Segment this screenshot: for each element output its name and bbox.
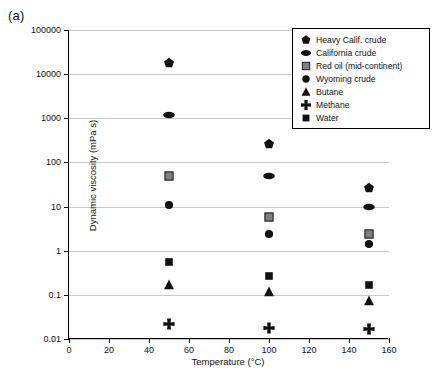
legend-marker-square-gray-icon: [298, 59, 314, 72]
y-tick-label: 1: [56, 246, 61, 256]
y-tick-label: 10: [51, 202, 61, 212]
legend-item: Butane: [298, 85, 425, 98]
x-tick: [189, 338, 190, 343]
x-tick: [69, 338, 70, 343]
gridline: [69, 251, 389, 252]
data-point: [363, 322, 376, 335]
x-tick: [149, 338, 150, 343]
gridline: [69, 162, 389, 163]
figure-panel-a: (a) 0.010.1110100100010000100000 0204060…: [0, 0, 437, 376]
data-point: [263, 321, 276, 334]
data-point: [163, 108, 176, 121]
data-point: [263, 227, 276, 240]
legend-marker-pentagon-icon: [298, 33, 314, 46]
x-tick: [389, 338, 390, 343]
y-tick: [64, 295, 69, 296]
data-point: [263, 138, 276, 151]
data-point: [363, 182, 376, 195]
data-point: [163, 56, 176, 69]
legend-item: Wyoming crude: [298, 72, 425, 85]
legend-label: Red oil (mid-continent): [316, 61, 402, 71]
x-tick-label: 80: [224, 345, 234, 355]
x-tick: [349, 338, 350, 343]
x-tick-label: 120: [301, 345, 316, 355]
legend-item: Heavy Calif. crude: [298, 33, 425, 46]
data-point: [363, 238, 376, 251]
legend-label: Water: [316, 113, 339, 123]
x-tick-label: 20: [104, 345, 114, 355]
legend-marker-plus-icon: [298, 98, 314, 111]
gridline: [69, 295, 389, 296]
x-axis-title: Temperature (°C): [68, 356, 388, 367]
y-tick-label: 10000: [36, 69, 61, 79]
x-tick: [109, 338, 110, 343]
legend: Heavy Calif. crudeCalifornia crudeRed oi…: [292, 28, 430, 129]
x-tick-label: 60: [184, 345, 194, 355]
data-point: [163, 169, 176, 182]
data-point: [163, 278, 176, 291]
data-point: [263, 269, 276, 282]
legend-item: Red oil (mid-continent): [298, 59, 425, 72]
x-tick-label: 40: [144, 345, 154, 355]
data-point: [163, 198, 176, 211]
y-tick-label: 0.01: [43, 334, 61, 344]
y-tick: [64, 74, 69, 75]
data-point: [263, 211, 276, 224]
legend-label: Butane: [316, 87, 343, 97]
legend-marker-circle-icon: [298, 72, 314, 85]
panel-label: (a): [8, 8, 25, 23]
x-tick: [229, 338, 230, 343]
x-tick-label: 160: [381, 345, 396, 355]
data-point: [263, 170, 276, 183]
data-point: [163, 256, 176, 269]
legend-item: Water: [298, 111, 425, 124]
y-axis-title: Dynamic viscosity (mPa s): [87, 91, 98, 261]
x-tick: [309, 338, 310, 343]
legend-label: Methane: [316, 100, 349, 110]
legend-item: Methane: [298, 98, 425, 111]
data-point: [263, 286, 276, 299]
legend-marker-ellipse-icon: [298, 46, 314, 59]
data-point: [363, 200, 376, 213]
legend-marker-triangle-icon: [298, 85, 314, 98]
y-tick-label: 1000: [41, 113, 61, 123]
x-tick-label: 100: [261, 345, 276, 355]
y-tick-label: 100: [46, 157, 61, 167]
x-tick-label: 0: [66, 345, 71, 355]
legend-label: California crude: [316, 48, 376, 58]
legend-label: Wyoming crude: [316, 74, 376, 84]
y-tick: [64, 30, 69, 31]
legend-marker-square-icon: [298, 111, 314, 124]
y-tick-label: 0.1: [48, 290, 61, 300]
y-tick: [64, 162, 69, 163]
legend-item: California crude: [298, 46, 425, 59]
x-tick: [269, 338, 270, 343]
y-tick: [64, 251, 69, 252]
data-point: [163, 317, 176, 330]
data-point: [363, 278, 376, 291]
y-tick: [64, 118, 69, 119]
y-tick-label: 100000: [31, 25, 61, 35]
data-point: [363, 294, 376, 307]
gridline: [69, 207, 389, 208]
x-tick-label: 140: [341, 345, 356, 355]
legend-label: Heavy Calif. crude: [316, 35, 386, 45]
y-tick: [64, 207, 69, 208]
